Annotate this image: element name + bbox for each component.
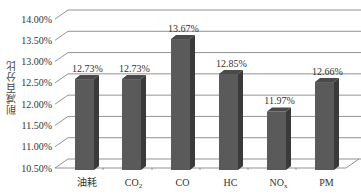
category-label: PM: [319, 177, 334, 188]
category-label: CO: [176, 177, 190, 188]
x-axis-categories: 油耗CO2COHCNOxPM: [77, 176, 334, 190]
bar-chart: 10.50%11.00%11.50%12.00%12.50%13.00%13.5…: [0, 0, 361, 194]
value-label: 11.97%: [264, 95, 294, 106]
y-tick-label: 11.50%: [22, 120, 52, 131]
bar: [267, 107, 291, 170]
value-label: 12.73%: [72, 63, 103, 74]
value-label: 12.85%: [216, 58, 247, 69]
bar: [315, 78, 339, 170]
bar: [171, 35, 195, 170]
y-tick-label: 13.00%: [21, 56, 52, 67]
y-tick-label: 11.00%: [22, 141, 52, 152]
y-axis-ticks: 10.50%11.00%11.50%12.00%12.50%13.00%13.5…: [21, 14, 52, 174]
y-tick-label: 10.50%: [21, 163, 52, 174]
bar: [75, 75, 99, 170]
floor-side-edge: [346, 159, 359, 168]
y-tick-label: 12.00%: [21, 99, 52, 110]
y-tick-label: 13.50%: [21, 35, 52, 46]
value-label: 12.66%: [312, 66, 343, 77]
y-tick-label: 12.50%: [21, 77, 52, 88]
value-label: 12.73%: [119, 63, 150, 74]
category-label: 油耗: [77, 176, 97, 188]
value-label: 13.67%: [168, 23, 199, 34]
category-label: CO2: [125, 177, 143, 190]
y-tick-label: 14.00%: [21, 14, 52, 25]
bar: [219, 70, 243, 170]
gridline: [55, 31, 361, 40]
bar: [122, 75, 146, 170]
gridline: [55, 53, 361, 62]
category-label: NOx: [270, 177, 288, 190]
category-label: HC: [224, 177, 238, 188]
gridline: [55, 10, 361, 19]
bars: 12.73%12.73%13.67%12.85%11.97%12.66%: [72, 23, 343, 170]
